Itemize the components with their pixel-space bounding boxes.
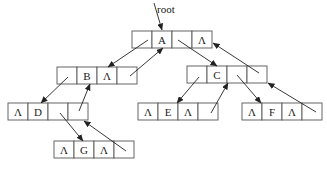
tree-node-c: C (187, 66, 267, 83)
thread-cell (68, 103, 88, 120)
tree-node-b: BΛ (57, 67, 137, 84)
node-label: A (158, 34, 166, 46)
tree-node-a: AΛ (132, 31, 212, 48)
tree-node-f: ΛFΛ (242, 103, 322, 120)
left-pointer-cell (187, 66, 207, 83)
null-symbol: Λ (14, 106, 22, 118)
node-label: F (269, 106, 275, 118)
node-label: G (80, 144, 88, 156)
null-symbol: Λ (60, 144, 68, 156)
left-pointer-cell (57, 67, 77, 84)
tree-node-e: ΛEΛ (138, 103, 218, 120)
threaded-binary-tree-diagram: root AΛBΛCΛDΛEΛΛFΛΛGΛ (0, 0, 327, 171)
right-pointer-cell (48, 103, 68, 120)
left-child-arrow-b-to-d (41, 77, 68, 103)
tree-node-d: ΛD (8, 103, 88, 120)
null-symbol: Λ (100, 144, 108, 156)
node-label: D (34, 106, 42, 118)
thread-cell (247, 66, 267, 83)
right-pointer-cell (172, 31, 192, 48)
node-label: C (213, 69, 220, 81)
tree-node-g: ΛGΛ (54, 141, 134, 158)
thread-cell (117, 67, 137, 84)
thread-arrow-b-to-a (130, 48, 163, 76)
nodes-layer: AΛBΛCΛDΛEΛΛFΛΛGΛ (8, 31, 322, 158)
null-symbol: Λ (144, 106, 152, 118)
null-symbol: Λ (103, 70, 111, 82)
null-symbol: Λ (288, 106, 296, 118)
left-child-arrow-a-to-b (108, 40, 148, 67)
node-label: E (165, 106, 172, 118)
left-pointer-cell (132, 31, 152, 48)
null-symbol: Λ (184, 106, 192, 118)
null-symbol: Λ (248, 106, 256, 118)
right-pointer-cell (227, 66, 247, 83)
root-label: root (157, 3, 175, 15)
node-label: B (83, 70, 90, 82)
thread-arrow-e-to-c (211, 83, 228, 113)
null-symbol: Λ (198, 34, 206, 46)
